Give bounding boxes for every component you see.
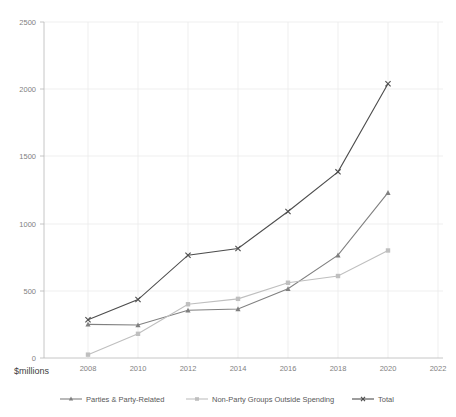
data-point[interactable] <box>336 274 340 278</box>
y-axis-tick-labels: 2500 2000 1500 1000 500 0 <box>19 18 36 363</box>
data-point[interactable] <box>385 190 390 195</box>
y-tick-500: 500 <box>23 287 36 296</box>
x-tick-2018: 2018 <box>330 364 347 373</box>
x-tick-2012: 2012 <box>180 364 197 373</box>
y-tick-2000: 2000 <box>19 85 36 94</box>
data-point[interactable] <box>386 248 390 252</box>
legend-label-non-party: Non-Party Groups Outside Spending <box>212 395 334 404</box>
data-point[interactable] <box>286 281 290 285</box>
marker-triangle-icon <box>385 190 390 195</box>
chart-svg: 2500 2000 1500 1000 500 0 2008 2010 2012… <box>0 0 456 417</box>
units-caption: $millions <box>14 366 50 376</box>
vertical-gridlines <box>88 22 438 358</box>
legend-label-parties: Parties & Party-Related <box>86 395 164 404</box>
data-point[interactable] <box>86 352 90 356</box>
marker-square-icon <box>386 248 390 252</box>
x-tick-2008: 2008 <box>80 364 97 373</box>
y-tick-0: 0 <box>32 354 36 363</box>
y-tick-1000: 1000 <box>19 220 36 229</box>
chart-legend: Parties & Party-Related Non-Party Groups… <box>60 395 394 404</box>
marker-square-icon <box>336 274 340 278</box>
legend-item-non-party[interactable]: Non-Party Groups Outside Spending <box>186 395 334 404</box>
data-point[interactable] <box>186 302 190 306</box>
horizontal-gridlines <box>44 22 443 291</box>
legend-label-total: Total <box>378 395 394 404</box>
y-axis-ticks <box>40 22 44 358</box>
line-chart: 2500 2000 1500 1000 500 0 2008 2010 2012… <box>0 0 456 417</box>
marker-square-icon <box>236 297 240 301</box>
x-axis-tick-labels: 2008 2010 2012 2014 2016 2018 2020 2022 <box>80 364 447 373</box>
x-tick-2010: 2010 <box>130 364 147 373</box>
marker-square-icon <box>286 281 290 285</box>
y-tick-2500: 2500 <box>19 18 36 27</box>
x-tick-2020: 2020 <box>380 364 397 373</box>
marker-square-icon <box>86 352 90 356</box>
marker-square-icon <box>186 302 190 306</box>
marker-square-icon <box>136 332 140 336</box>
x-tick-2014: 2014 <box>230 364 247 373</box>
x-tick-2016: 2016 <box>280 364 297 373</box>
x-tick-2022: 2022 <box>430 364 447 373</box>
legend-marker-square-icon <box>195 397 199 401</box>
legend-item-total[interactable]: Total <box>352 395 394 404</box>
data-point[interactable] <box>236 297 240 301</box>
y-tick-1500: 1500 <box>19 152 36 161</box>
legend-item-parties[interactable]: Parties & Party-Related <box>60 395 164 404</box>
data-point[interactable] <box>136 332 140 336</box>
